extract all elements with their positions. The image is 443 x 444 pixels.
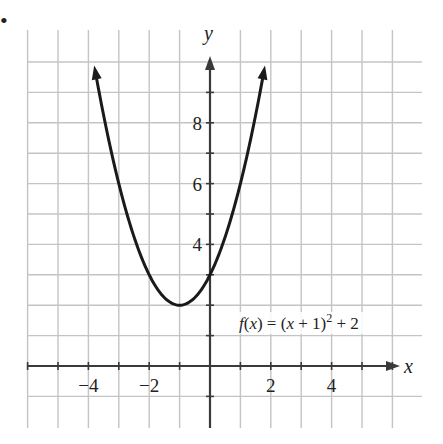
curve-arrow-icon <box>258 65 268 80</box>
function-label: f(x) = (x + 1)2 + 2 <box>239 311 359 333</box>
x-tick-label: 2 <box>266 375 276 396</box>
y-tick-label: 6 <box>193 174 203 195</box>
x-axis-label: x <box>403 355 413 377</box>
y-axis-label: y <box>202 22 213 45</box>
y-tick-label: 4 <box>193 234 203 255</box>
y-tick-label: 8 <box>193 113 203 134</box>
curve-arrow-icon <box>92 65 102 80</box>
x-tick-label: 4 <box>327 375 337 396</box>
parabola-chart: −4−224468 x y f(x) = (x + 1)2 + 2 <box>0 0 443 444</box>
grid <box>28 30 422 428</box>
tick-labels: −4−224468 <box>78 113 337 396</box>
y-axis-arrow-icon <box>205 56 215 70</box>
axes <box>28 56 400 428</box>
x-tick-label: −2 <box>139 375 159 396</box>
x-tick-label: −4 <box>78 375 99 396</box>
